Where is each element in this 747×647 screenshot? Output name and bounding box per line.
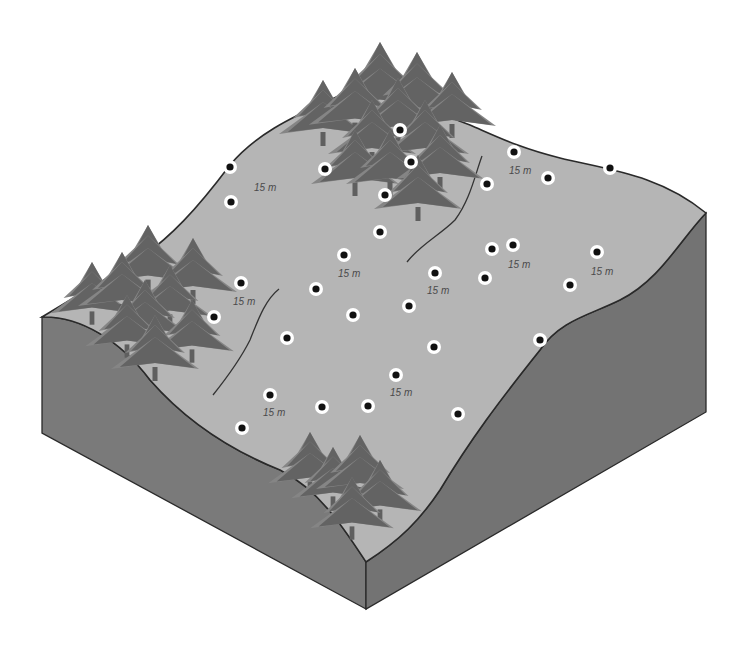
plot-marker-icon	[309, 282, 323, 296]
plot-marker-icon	[506, 238, 520, 252]
distance-label: 15 m	[254, 182, 276, 193]
distance-label: 15 m	[390, 387, 412, 398]
plot-marker-icon	[393, 123, 407, 137]
plot-marker-icon	[402, 299, 416, 313]
distance-label: 15 m	[263, 407, 285, 418]
distance-label: 15 m	[338, 268, 360, 279]
plot-marker-icon	[485, 242, 499, 256]
distance-label: 15 m	[591, 266, 613, 277]
plot-marker-icon	[480, 177, 494, 191]
plot-marker-icon	[478, 271, 492, 285]
plot-marker-icon	[346, 308, 360, 322]
plot-marker-icon	[318, 162, 332, 176]
plot-marker-icon	[451, 407, 465, 421]
plot-marker-icon	[378, 188, 392, 202]
distance-label: 15 m	[508, 259, 530, 270]
distance-label: 15 m	[233, 296, 255, 307]
plot-marker-icon	[389, 368, 403, 382]
plot-marker-icon	[507, 145, 521, 159]
plot-marker-icon	[603, 161, 617, 175]
plot-marker-icon	[223, 160, 237, 174]
plot-marker-icon	[541, 171, 555, 185]
plot-marker-icon	[315, 400, 329, 414]
plot-marker-icon	[224, 195, 238, 209]
plot-marker-icon	[427, 340, 441, 354]
plot-marker-icon	[373, 225, 387, 239]
plot-marker-icon	[234, 276, 248, 290]
terrain-diagram: 15 m15 m15 m15 m15 m15 m15 m15 m15 m	[0, 0, 747, 647]
plot-marker-icon	[263, 388, 277, 402]
plot-marker-icon	[533, 333, 547, 347]
plot-marker-icon	[590, 245, 604, 259]
plot-marker-icon	[361, 399, 375, 413]
plot-marker-icon	[337, 248, 351, 262]
plot-marker-icon	[280, 331, 294, 345]
distance-label: 15 m	[427, 285, 449, 296]
plot-marker-icon	[235, 421, 249, 435]
terrain-block-svg: 15 m15 m15 m15 m15 m15 m15 m15 m15 m	[0, 0, 747, 647]
distance-label: 15 m	[509, 165, 531, 176]
plot-marker-icon	[563, 278, 577, 292]
plot-marker-icon	[404, 155, 418, 169]
plot-marker-icon	[428, 266, 442, 280]
plot-marker-icon	[207, 310, 221, 324]
